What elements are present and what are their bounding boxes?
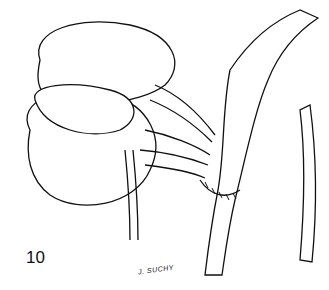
kidney-illustration xyxy=(0,0,329,290)
illustration: 10 J. SUCHY xyxy=(0,0,329,290)
figure-number: 10 xyxy=(26,248,45,268)
